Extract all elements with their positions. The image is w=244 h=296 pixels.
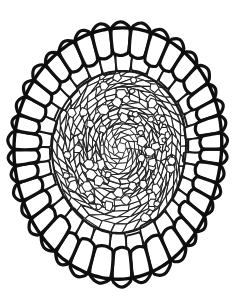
parenchyma-cell xyxy=(137,154,145,162)
parenchyma-cell xyxy=(63,172,70,178)
parenchyma-cell xyxy=(165,146,169,152)
parenchyma-cell xyxy=(162,138,166,143)
cross-section-drawing: Cross-section cellular line drawing xyxy=(0,0,244,296)
parenchyma-cell xyxy=(105,172,111,178)
outer-ring-cell xyxy=(112,247,131,287)
parenchyma-cell xyxy=(80,108,88,117)
parenchyma-cell xyxy=(105,201,113,211)
parenchyma-cell xyxy=(130,77,136,83)
parenchyma-cell xyxy=(160,116,166,122)
parenchyma-cell xyxy=(148,158,156,167)
figure-container: Cross-section cellular line drawing xyxy=(0,0,244,296)
